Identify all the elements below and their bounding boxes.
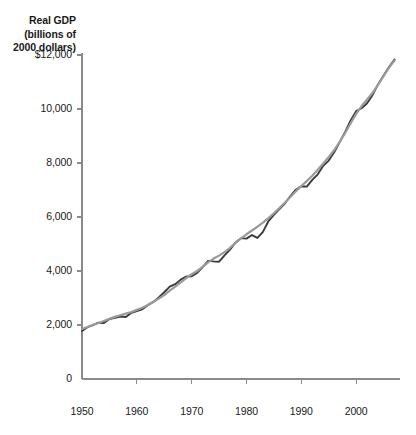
- potential-gdp-line: [82, 61, 395, 329]
- actual-gdp-line: [82, 60, 395, 331]
- plot-area: [0, 0, 416, 435]
- real-gdp-chart: Real GDP (billions of 2000 dollars) $12,…: [0, 0, 416, 435]
- data-series: [82, 60, 395, 331]
- axes: [77, 53, 400, 384]
